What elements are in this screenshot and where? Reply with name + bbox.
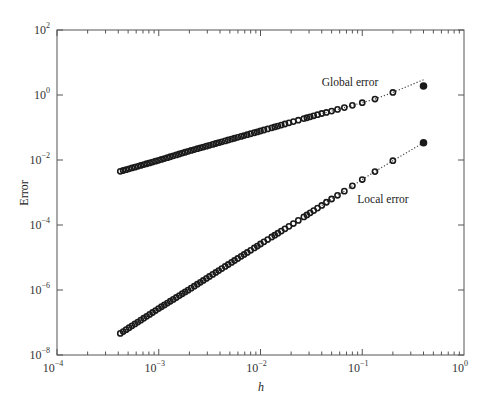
y-tick-label: 10−4	[29, 216, 50, 232]
global-error-point	[421, 83, 427, 89]
y-tick-label: 10−8	[29, 346, 50, 362]
y-tick-label: 102	[34, 21, 50, 37]
global-error-annotation: Global error	[322, 76, 379, 88]
local-error-annotation: Local error	[357, 193, 409, 205]
local-error-point	[421, 140, 427, 146]
global-error-point	[360, 100, 365, 105]
y-tick-label: 10−2	[29, 151, 50, 167]
error-vs-h-chart: 10−410−310−210−1100 10−810−610−410−21001…	[0, 0, 496, 402]
y-axis-title: Error	[17, 180, 31, 205]
local-error-series	[118, 140, 427, 336]
local-error-point	[118, 331, 123, 336]
local-error-point	[335, 193, 340, 198]
y-tick-label: 100	[34, 86, 50, 102]
y-tick-label: 10−6	[29, 281, 50, 297]
global-error-point	[350, 103, 355, 108]
x-tick-labels: 10−410−310−210−1100	[43, 359, 468, 375]
x-tick-label: 10−1	[348, 359, 369, 375]
global-error-point	[335, 107, 340, 112]
global-error-point	[329, 108, 334, 113]
local-error-point	[350, 183, 355, 188]
local-error-point	[301, 214, 306, 219]
local-error-point	[372, 169, 377, 174]
x-tick-label: 10−3	[144, 359, 165, 375]
x-tick-label: 10−2	[246, 359, 267, 375]
global-error-series	[118, 83, 427, 174]
x-tick-label: 100	[452, 359, 468, 375]
x-axis-title: h	[258, 380, 264, 394]
x-tick-label: 10−4	[43, 359, 64, 375]
local-error-point	[329, 196, 334, 201]
y-tick-labels: 10−810−610−410−2100102	[29, 21, 50, 362]
